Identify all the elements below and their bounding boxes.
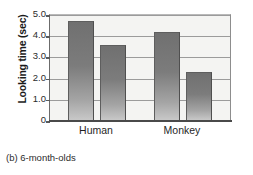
x-axis-group-label: Human	[56, 124, 136, 136]
x-axis-baseline	[49, 120, 232, 122]
y-axis-tick-label: 3.0	[20, 51, 46, 61]
y-axis-tickmark	[46, 36, 50, 38]
bar	[68, 21, 94, 120]
bar	[154, 32, 180, 120]
y-axis-tick-label: 5.0	[20, 9, 46, 19]
y-axis-tickmark	[46, 79, 50, 81]
plot-area	[49, 14, 231, 120]
y-axis-tickmark	[46, 15, 50, 17]
x-axis-group-label: Monkey	[142, 124, 222, 136]
y-axis-tick-label: 2.0	[20, 73, 46, 83]
y-axis-tick-labels: 01.02.03.04.05.0	[20, 14, 46, 120]
y-axis-tickmark	[46, 100, 50, 102]
y-axis-tick-label: 4.0	[20, 30, 46, 40]
figure-caption: (b) 6-month-olds	[6, 152, 76, 163]
y-axis-tickmark	[46, 57, 50, 59]
bar	[186, 72, 212, 120]
gridline	[50, 15, 230, 16]
bar-chart-figure: Looking time (sec) 01.02.03.04.05.0 Huma…	[0, 0, 253, 175]
y-axis-tick-label: 1.0	[20, 94, 46, 104]
y-axis-tick-label: 0	[20, 115, 46, 125]
bar	[100, 45, 126, 120]
